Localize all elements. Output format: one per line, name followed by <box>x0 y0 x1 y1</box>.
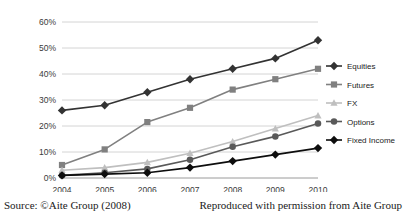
data-point-marker <box>315 66 321 72</box>
y-axis-tick-label: 0% <box>44 173 57 183</box>
data-point-marker <box>58 106 66 114</box>
y-axis-tick-label: 60% <box>39 17 56 27</box>
data-point-marker <box>330 62 338 70</box>
data-point-marker <box>228 157 236 165</box>
data-point-marker <box>272 133 279 140</box>
data-point-marker <box>331 118 338 125</box>
data-point-marker <box>314 144 322 152</box>
x-axis-tick-label: 2009 <box>266 185 285 192</box>
data-point-marker <box>143 88 151 96</box>
data-point-marker <box>271 54 279 62</box>
legend-label-futures: Futures <box>347 81 374 90</box>
data-point-marker <box>314 36 322 44</box>
y-axis-tick-label: 40% <box>39 69 56 79</box>
x-axis-tick-label: 2005 <box>95 185 114 192</box>
permission-caption: Reproduced with permission from Aite Gro… <box>199 199 402 211</box>
data-point-marker <box>186 163 194 171</box>
data-point-marker <box>315 120 322 127</box>
x-axis-tick-label: 2007 <box>181 185 200 192</box>
data-point-marker <box>100 170 108 178</box>
data-point-marker <box>229 144 236 151</box>
data-point-marker <box>187 105 193 111</box>
data-point-marker <box>186 75 194 83</box>
data-point-marker <box>314 112 321 119</box>
plot-area: 0%10%20%30%40%50%60%20042005200620072008… <box>0 0 406 192</box>
data-point-marker <box>100 101 108 109</box>
y-axis-tick-label: 50% <box>39 43 56 53</box>
x-axis-tick-label: 2004 <box>53 185 72 192</box>
x-axis-tick-label: 2010 <box>309 185 328 192</box>
legend-label-fixed-income: Fixed Income <box>347 136 396 145</box>
data-point-marker <box>272 76 278 82</box>
data-point-marker <box>330 136 338 144</box>
line-chart: 0%10%20%30%40%50%60%20042005200620072008… <box>0 0 406 192</box>
chart-figure: 0%10%20%30%40%50%60%20042005200620072008… <box>0 0 406 219</box>
legend-label-equities: Equities <box>347 62 375 71</box>
data-point-marker <box>187 157 194 164</box>
legend-label-fx: FX <box>347 99 358 108</box>
x-axis-tick-label: 2006 <box>138 185 157 192</box>
y-axis-tick-label: 30% <box>39 95 56 105</box>
data-point-marker <box>228 65 236 73</box>
y-axis-tick-label: 20% <box>39 121 56 131</box>
caption-row: Source: ©Aite Group (2008) Reproduced wi… <box>0 194 406 219</box>
data-point-marker <box>144 119 150 125</box>
data-point-marker <box>331 81 337 87</box>
y-axis-tick-label: 10% <box>39 147 56 157</box>
data-point-marker <box>102 146 108 152</box>
source-caption: Source: ©Aite Group (2008) <box>4 199 131 211</box>
data-point-marker <box>230 87 236 93</box>
x-axis-tick-label: 2008 <box>223 185 242 192</box>
legend-label-options: Options <box>347 118 375 127</box>
